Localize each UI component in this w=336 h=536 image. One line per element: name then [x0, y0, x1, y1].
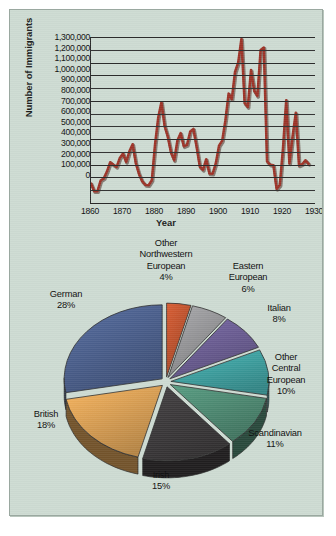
- gridline: [91, 63, 315, 64]
- x-tick: 1880: [145, 206, 163, 216]
- y-tick: 1,000,000: [18, 64, 90, 75]
- label-percent: 10%: [252, 386, 320, 397]
- label-percent: 4%: [114, 272, 218, 283]
- pie-slice[interactable]: [64, 305, 162, 393]
- plot-area: [90, 37, 315, 204]
- gridline: [91, 101, 315, 102]
- label-line: Other: [275, 352, 297, 362]
- y-tick: 900,000: [18, 74, 90, 85]
- label-line: European: [267, 375, 306, 385]
- y-tick: 100,000: [18, 159, 90, 170]
- label-percent: 28%: [34, 300, 98, 311]
- pie-chart: Other Northwestern European 4% Eastern E…: [10, 232, 322, 515]
- label-percent: 11%: [232, 439, 318, 450]
- label-line: German: [50, 289, 82, 299]
- y-tick: 700,000: [18, 96, 90, 107]
- label-line: European: [229, 272, 268, 282]
- pie-label-irish: Irish 15%: [134, 470, 188, 493]
- x-tick: 1900: [209, 206, 227, 216]
- y-tick: 500,000: [18, 117, 90, 128]
- label-line: Italian: [267, 303, 290, 313]
- label-line: Northwestern: [140, 249, 193, 259]
- y-tick: 0: [18, 170, 90, 181]
- label-percent: 6%: [210, 284, 286, 295]
- label-percent: 18%: [18, 420, 74, 431]
- x-tick: 1890: [177, 206, 195, 216]
- label-percent: 15%: [134, 481, 188, 492]
- gridline: [91, 190, 315, 191]
- x-tick: 1930: [305, 206, 323, 216]
- y-tick: 800,000: [18, 85, 90, 96]
- y-tick: 600,000: [18, 106, 90, 117]
- pie-label-german: German 28%: [34, 289, 98, 312]
- pie-label-other-northwestern-european: Other Northwestern European 4%: [114, 238, 218, 284]
- gridline: [91, 139, 315, 140]
- y-tick: 400,000: [18, 127, 90, 138]
- pie-label-scandinavian: Scandinavian 11%: [232, 428, 318, 451]
- x-tick: 1910: [241, 206, 259, 216]
- label-line: Irish: [153, 470, 170, 480]
- label-line: British: [34, 409, 58, 419]
- x-axis-title: Year: [10, 217, 322, 228]
- pie-label-italian: Italian 8%: [248, 303, 310, 326]
- label-line: Other: [155, 238, 177, 248]
- figure-frame: Number of Immigrants 1,300,000 1,200,000…: [9, 9, 323, 516]
- y-tick: 200,000: [18, 149, 90, 160]
- gridline: [91, 88, 315, 89]
- pie-label-british: British 18%: [18, 409, 74, 432]
- x-tick: 1920: [273, 206, 291, 216]
- gridline: [91, 50, 315, 51]
- pie-label-other-central-european: Other Central European 10%: [252, 352, 320, 398]
- label-line: European: [147, 261, 186, 271]
- gridline: [91, 152, 315, 153]
- y-tick: 1,200,000: [18, 43, 90, 54]
- label-percent: 8%: [248, 314, 310, 325]
- y-axis-tick-labels: 1,300,000 1,200,000 1,100,000 1,000,000 …: [18, 32, 90, 180]
- gridline: [91, 37, 315, 38]
- y-tick: 1,300,000: [18, 32, 90, 43]
- gridline: [91, 75, 315, 76]
- y-tick: 1,100,000: [18, 53, 90, 64]
- gridline: [91, 114, 315, 115]
- gridline: [91, 126, 315, 127]
- gridline: [91, 177, 315, 178]
- x-tick: 1860: [81, 206, 99, 216]
- label-line: Scandinavian: [248, 428, 301, 438]
- label-line: Eastern: [233, 261, 264, 271]
- y-tick: 300,000: [18, 138, 90, 149]
- gridline: [91, 165, 315, 166]
- x-tick: 1870: [113, 206, 131, 216]
- pie-label-eastern-european: Eastern European 6%: [210, 261, 286, 295]
- line-chart: Number of Immigrants 1,300,000 1,200,000…: [10, 10, 322, 225]
- label-line: Central: [272, 363, 301, 373]
